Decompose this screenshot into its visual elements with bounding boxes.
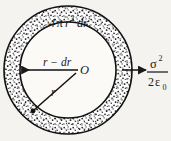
sigma-exponent: 2 bbox=[159, 54, 163, 63]
inner-radius-label: r − dr bbox=[43, 56, 72, 68]
shell-diagram: 4 π r 2 dr r − dr O r σ 2 2 ε 0 bbox=[0, 0, 171, 141]
outer-radius-label: r bbox=[51, 86, 56, 98]
epsilon-subscript: 0 bbox=[163, 83, 167, 92]
area-element-differential: dr bbox=[77, 16, 88, 30]
area-element-label: 4 π r 2 dr bbox=[49, 14, 88, 31]
area-element-r: r bbox=[65, 16, 70, 30]
area-element-lead: 4 bbox=[49, 16, 55, 30]
pi-symbol: π bbox=[57, 16, 64, 30]
denominator-lead: 2 bbox=[148, 75, 154, 89]
epsilon-symbol: ε bbox=[155, 75, 160, 89]
area-element-exponent: 2 bbox=[71, 14, 75, 23]
sigma-symbol: σ bbox=[150, 57, 157, 71]
inner-radius-label-text: r − dr bbox=[43, 56, 72, 68]
center-label: O bbox=[80, 63, 89, 77]
figure-canvas: 4 π r 2 dr r − dr O r σ 2 2 ε 0 bbox=[0, 0, 171, 141]
radius-endpoint-dot bbox=[31, 109, 36, 114]
